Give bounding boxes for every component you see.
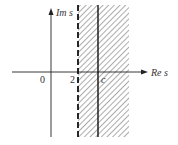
marker-label-2: 2: [70, 74, 75, 85]
origin-label: 0: [40, 74, 45, 85]
real-axis-arrow-icon: [141, 70, 148, 75]
imaginary-axis-arrow-icon: [49, 8, 54, 15]
hatched-region: [78, 5, 129, 137]
marker-label-c: c: [101, 74, 106, 85]
complex-plane-diagram: Im s 0 2 c Re s: [0, 0, 178, 145]
real-axis-label: Re s: [150, 67, 168, 78]
imaginary-axis-label: Im s: [55, 7, 73, 18]
